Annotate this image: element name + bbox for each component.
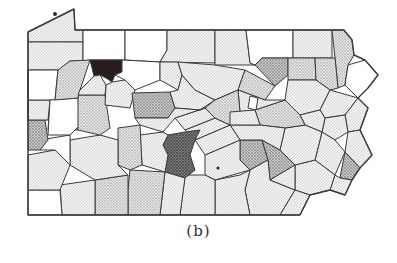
- county-clearfield: [132, 92, 175, 118]
- city-marker-dot: [53, 12, 57, 16]
- county-huntingdon: [163, 130, 200, 178]
- county-cambria: [118, 125, 142, 170]
- county-mercer: [28, 70, 58, 100]
- city-marker-dot: [216, 166, 219, 169]
- county-fayette: [60, 180, 95, 215]
- county-lawrence: [28, 100, 50, 120]
- county-somerset: [95, 175, 128, 215]
- county-potter: [160, 30, 215, 63]
- county-pike: [345, 60, 378, 98]
- county-susquehanna: [293, 30, 332, 58]
- county-lackawanna: [288, 58, 316, 80]
- pennsylvania-county-map: [0, 0, 397, 230]
- figure-caption: (b): [0, 222, 397, 240]
- county-greene: [28, 190, 62, 215]
- county-franklin: [180, 175, 215, 215]
- county-armstrong: [48, 98, 80, 135]
- county-warren: [83, 30, 125, 61]
- county-northumberland: [230, 110, 260, 125]
- county-layer: [28, 9, 378, 215]
- county-bedford: [128, 170, 165, 215]
- county-blair: [140, 132, 168, 172]
- county-montour: [248, 96, 258, 110]
- county-mckean: [125, 30, 167, 62]
